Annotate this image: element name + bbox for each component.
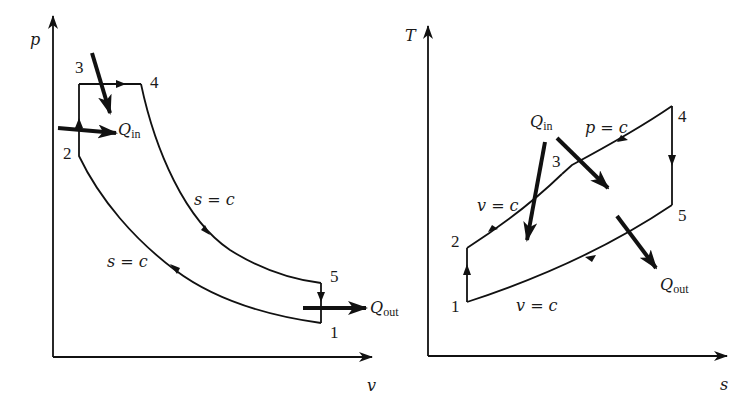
pv-y-axis-label: p: [30, 30, 40, 49]
ts-axes: [428, 26, 727, 356]
ts-heat-in-label: Qin: [530, 112, 552, 133]
pv-label-expansion: s = c: [194, 190, 235, 209]
ts-state-3: 3: [552, 152, 561, 171]
pv-heat-in-label: Qin: [118, 120, 140, 141]
pv-diagram: p v 2 3 4 5 1 s = c s = c: [30, 16, 399, 395]
pv-state-1: 1: [330, 323, 339, 342]
ts-heat-out-label: Qout: [660, 275, 689, 296]
ts-heat-out-arrow-icon: [617, 216, 656, 268]
pv-process-4-5: [141, 84, 321, 283]
pv-heat-out-label: Qout: [370, 298, 399, 319]
pv-state-5: 5: [330, 267, 339, 286]
pv-axes: [53, 16, 372, 357]
ts-label-v-const-upper: v = c: [477, 196, 519, 215]
ts-state-4: 4: [678, 107, 687, 126]
pv-arrow-3-4-icon: [116, 80, 126, 88]
pv-arrow-2-3-icon: [75, 118, 83, 128]
ts-arrow-1-2-icon: [463, 264, 471, 275]
pv-arrow-5-1-icon: [317, 292, 325, 302]
ts-process-3-4: [562, 106, 672, 174]
pv-state-3: 3: [75, 58, 84, 77]
ts-x-axis-label: s: [720, 375, 728, 394]
ts-y-axis-label: T: [405, 26, 417, 45]
pv-label-compression: s = c: [107, 252, 148, 271]
ts-arrow-4-5-icon: [668, 155, 676, 166]
pv-arrow-4-5-icon: [201, 225, 210, 235]
ts-state-1: 1: [451, 297, 460, 316]
pv-state-4: 4: [150, 73, 159, 92]
pv-state-2: 2: [63, 144, 72, 163]
ts-state-2: 2: [451, 232, 460, 251]
pv-heat-in-arrow-icon: [92, 53, 110, 113]
ts-label-v-const-lower: v = c: [516, 296, 558, 315]
pv-x-axis-label: v: [367, 376, 376, 395]
pv-process-1-2: [79, 148, 321, 323]
pv-heat-in-arrow-2-icon: [58, 128, 116, 133]
ts-process-5-1: [467, 205, 672, 302]
ts-diagram: T s 1 2 3 4 5 v = c p = c v = c: [405, 26, 728, 394]
ts-arrow-5-1-icon: [585, 255, 596, 262]
ts-state-5: 5: [678, 206, 687, 225]
ts-heat-in-arrow-2-icon: [557, 138, 608, 188]
ts-label-p-const: p = c: [585, 118, 628, 137]
diagram-canvas: p v 2 3 4 5 1 s = c s = c: [0, 0, 747, 404]
